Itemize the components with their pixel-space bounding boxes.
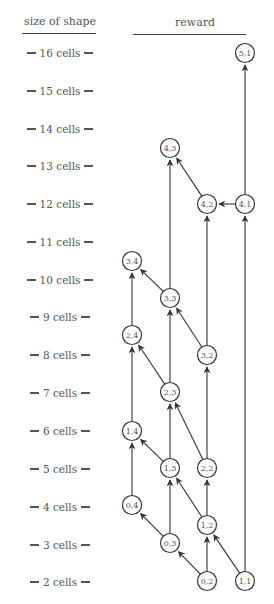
node-label: 5,1 — [239, 49, 252, 58]
node-label: 1,2 — [201, 521, 214, 530]
node-3-4: 3,4 — [123, 252, 142, 271]
edge-arrow — [177, 308, 202, 347]
node-label: 0,2 — [201, 577, 214, 586]
reward-graph: 5,14,34,24,13,43,32,43,22,31,41,32,20,41… — [0, 0, 274, 604]
node-label: 2,3 — [164, 388, 177, 397]
node-4-1: 4,1 — [236, 195, 255, 214]
node-0-4: 0,4 — [123, 496, 142, 515]
node-2-2: 2,2 — [198, 459, 217, 478]
node-label: 1,4 — [126, 427, 139, 436]
node-label: 0,3 — [164, 539, 177, 548]
edge-arrow — [177, 478, 202, 517]
node-0-2: 0,2 — [198, 572, 217, 591]
reward-shape-diagram: size of shape reward 16 cells15 cells14 … — [0, 0, 274, 604]
node-3-2: 3,2 — [198, 346, 217, 365]
node-label: 4,3 — [164, 144, 177, 153]
node-label: 1,1 — [239, 577, 252, 586]
node-label: 4,2 — [201, 200, 214, 209]
node-1-4: 1,4 — [123, 422, 142, 441]
node-label: 1,3 — [164, 464, 177, 473]
node-label: 4,1 — [239, 200, 252, 209]
node-2-4: 2,4 — [123, 326, 142, 345]
node-label: 3,2 — [201, 351, 214, 360]
node-1-1: 1,1 — [236, 572, 255, 591]
edge-arrow — [175, 403, 203, 460]
edge-arrow — [139, 345, 165, 384]
edge-arrow — [177, 158, 202, 196]
node-1-2: 1,2 — [198, 516, 217, 535]
node-label: 2,2 — [201, 464, 214, 473]
nodes: 5,14,34,24,13,43,32,43,22,31,41,32,20,41… — [123, 44, 255, 591]
edge-arrow — [140, 513, 163, 536]
node-2-3: 2,3 — [161, 383, 180, 402]
edge-arrow — [141, 269, 164, 291]
edge-arrow — [214, 535, 240, 573]
edge-arrow — [141, 439, 164, 461]
node-3-3: 3,3 — [161, 289, 180, 308]
node-label: 3,4 — [126, 257, 139, 266]
node-4-2: 4,2 — [198, 195, 217, 214]
node-0-3: 0,3 — [161, 534, 180, 553]
node-label: 3,3 — [164, 294, 177, 303]
node-label: 2,4 — [126, 331, 139, 340]
node-5-1: 5,1 — [236, 44, 255, 63]
node-label: 0,4 — [126, 501, 139, 510]
node-1-3: 1,3 — [161, 459, 180, 478]
edges — [132, 65, 245, 574]
node-4-3: 4,3 — [161, 139, 180, 158]
edge-arrow — [178, 552, 200, 575]
